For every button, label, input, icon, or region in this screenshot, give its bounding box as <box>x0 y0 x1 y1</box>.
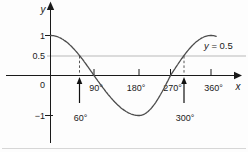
solution-angle-label-60: 60° <box>74 113 88 123</box>
origin-label: 0 <box>40 80 45 90</box>
x-axis-arrow-icon <box>234 72 242 79</box>
y-axis-arrow-icon <box>47 2 54 11</box>
y-tick-label--1: −1 <box>35 111 45 121</box>
x-tick-label-360: 360° <box>204 83 223 93</box>
y-tick-label-0.5: 0.5 <box>32 51 45 61</box>
reference-line-label: y = 0.5 <box>203 40 233 51</box>
x-tick-label-180: 180° <box>127 83 146 93</box>
y-tick-label-1: 1 <box>40 31 45 41</box>
x-axis-label: x <box>235 81 242 92</box>
marker-arrow-icon-60 <box>77 77 83 84</box>
solution-angle-label-300: 300° <box>176 113 195 123</box>
marker-arrow-icon-300 <box>181 77 187 84</box>
y-axis-label: y <box>40 4 47 15</box>
cosine-chart: 90°180°270°360°10.5−1 60°300° y x 0 y = … <box>0 0 248 152</box>
cosine-graph-figure: 90°180°270°360°10.5−1 60°300° y x 0 y = … <box>0 0 248 152</box>
